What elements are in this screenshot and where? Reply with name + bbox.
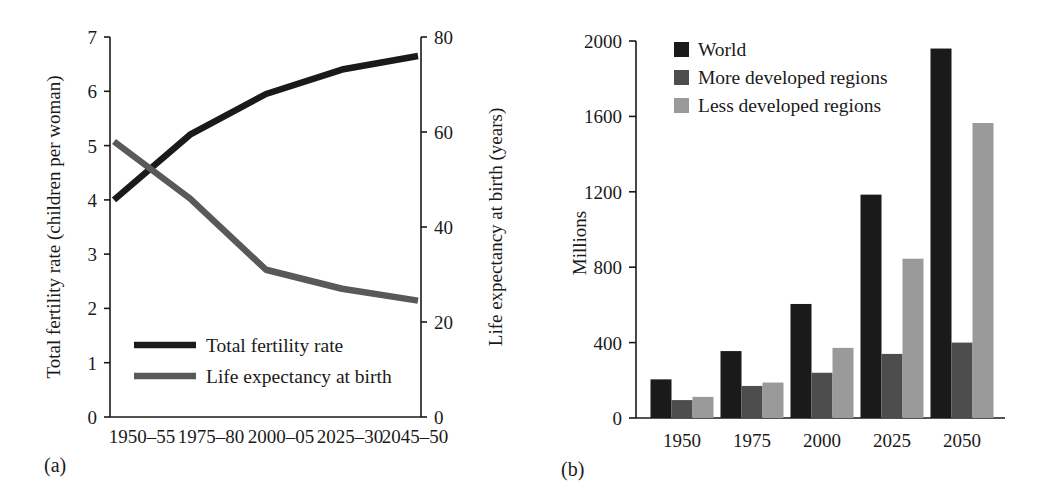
left-y-tick-label: 6 (88, 81, 98, 102)
right-y-tick-label: 20 (434, 312, 453, 333)
left-y-tick-label: 0 (88, 407, 98, 428)
y-tick-label: 400 (594, 333, 623, 354)
panel-b-legend: World More developed regions Less develo… (674, 39, 888, 116)
panel-a-svg: 0 1 2 3 4 5 6 7 0 20 40 60 (0, 0, 523, 492)
chart-panel-a: 0 1 2 3 4 5 6 7 0 20 40 60 (0, 0, 523, 492)
right-y-tick-label: 80 (434, 27, 453, 48)
panel-a-label: (a) (44, 454, 66, 477)
panel-b-y-axis-title: Millions (569, 211, 590, 275)
x-tick-label: 1950 (663, 430, 701, 451)
y-tick-label: 2000 (584, 31, 622, 52)
panel-a-legend: Total fertility rate Life expectancy at … (134, 335, 392, 387)
bar-world-2050 (931, 49, 952, 418)
left-y-tick-label: 1 (88, 353, 98, 374)
left-y-tick-label: 5 (88, 136, 98, 157)
legend-swatch-less-developed-regions (674, 98, 689, 113)
x-tick-label: 2000–05 (248, 426, 315, 447)
bar-less-developed-regions-1975 (763, 383, 784, 418)
legend-label-less-developed-regions: Less developed regions (698, 95, 881, 116)
legend-label-life-expectancy: Life expectancy at birth (206, 366, 392, 387)
bar-more-developed-regions-2000 (812, 373, 833, 418)
x-tick-label: 2025 (873, 430, 911, 451)
legend-swatch-more-developed-regions (674, 70, 689, 85)
bar-more-developed-regions-2025 (882, 354, 903, 418)
bar-world-2025 (861, 195, 882, 418)
bar-less-developed-regions-2050 (973, 123, 994, 418)
x-tick-label: 2050 (943, 430, 981, 451)
bar-more-developed-regions-2050 (952, 343, 973, 418)
y-tick-label: 1600 (584, 106, 622, 127)
x-tick-label: 1950–55 (109, 426, 176, 447)
left-y-tick-label: 2 (88, 298, 98, 319)
x-tick-label: 2025–30 (317, 426, 384, 447)
panel-a-right-axis-title: Life expectancy at birth (years) (485, 108, 507, 346)
right-y-ticks (421, 37, 427, 417)
bar-world-1950 (651, 379, 672, 418)
bar-less-developed-regions-2025 (903, 259, 924, 418)
panel-b-x-tick-labels: 1950 1975 2000 2025 2050 (663, 430, 981, 451)
y-tick-label: 800 (594, 257, 623, 278)
panel-b-label: (b) (561, 458, 584, 481)
legend-label-world: World (698, 39, 747, 60)
right-y-tick-labels: 0 20 40 60 80 (434, 27, 453, 428)
line-life-expectancy (114, 142, 418, 301)
panel-a-left-axis-title: Total fertility rate (children per woman… (43, 75, 65, 378)
left-y-ticks (104, 37, 110, 417)
x-tick-label: 2045–50 (382, 426, 449, 447)
figure-container: 0 1 2 3 4 5 6 7 0 20 40 60 (0, 0, 1047, 492)
legend-label-total-fertility-rate: Total fertility rate (206, 335, 343, 356)
panel-b-y-ticks (629, 41, 636, 418)
panel-b-svg: 0 400 800 1200 1600 2000 1950 1975 2000 … (523, 0, 1047, 492)
bar-world-1975 (721, 351, 742, 418)
bar-less-developed-regions-2000 (833, 348, 854, 418)
bar-more-developed-regions-1950 (672, 400, 693, 418)
x-tick-label: 1975–80 (178, 426, 245, 447)
bar-world-2000 (791, 304, 812, 418)
x-tick-label: 2000 (803, 430, 841, 451)
right-y-tick-label: 60 (434, 122, 453, 143)
panel-a-x-tick-labels: 1950–55 1975–80 2000–05 2025–30 2045–50 (109, 426, 449, 447)
right-y-tick-label: 0 (434, 407, 444, 428)
y-tick-label: 0 (613, 408, 623, 429)
right-y-tick-label: 40 (434, 217, 453, 238)
chart-panel-b: 0 400 800 1200 1600 2000 1950 1975 2000 … (523, 0, 1047, 492)
legend-label-more-developed-regions: More developed regions (698, 67, 888, 88)
x-tick-label: 1975 (733, 430, 771, 451)
left-y-tick-labels: 0 1 2 3 4 5 6 7 (88, 27, 98, 428)
bar-less-developed-regions-1950 (693, 397, 714, 418)
left-y-tick-label: 4 (88, 190, 98, 211)
left-y-tick-label: 7 (88, 27, 98, 48)
legend-swatch-world (674, 42, 689, 57)
bar-more-developed-regions-1975 (742, 386, 763, 418)
left-y-tick-label: 3 (88, 244, 98, 265)
y-tick-label: 1200 (584, 182, 622, 203)
